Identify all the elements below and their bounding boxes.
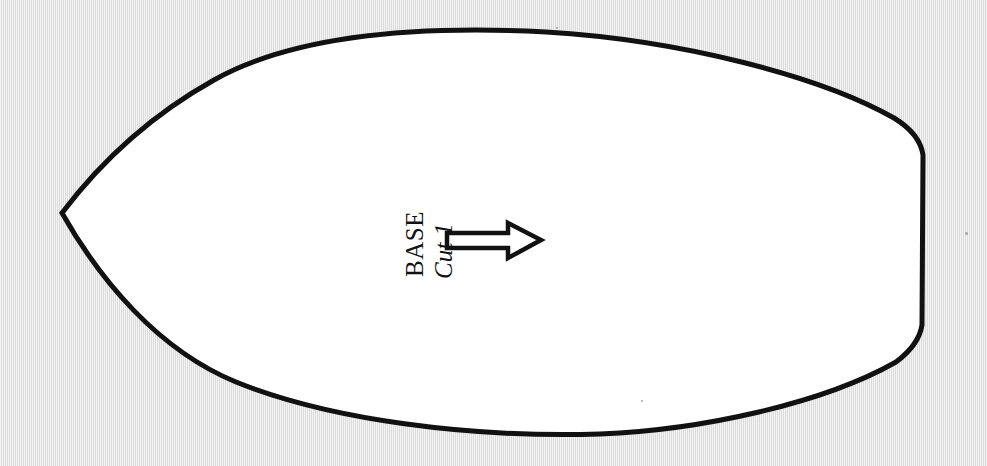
pattern-sheet: BASE Cut 1 (0, 0, 987, 466)
dust-speck (965, 232, 968, 235)
cut-instruction-label: Cut 1 (431, 223, 456, 279)
dust-speck (556, 27, 558, 29)
pattern-piece-outline (0, 0, 987, 466)
dust-speck (641, 400, 643, 402)
piece-name-label: BASE (402, 211, 427, 277)
